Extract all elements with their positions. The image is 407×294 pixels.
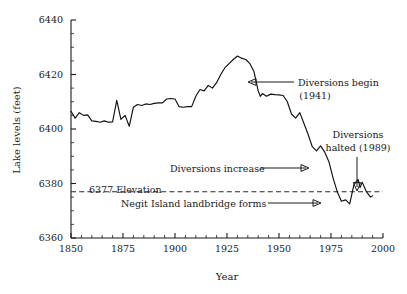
annotation-diversions-halted: Diversions halted (1989) [326, 129, 391, 191]
negit-landbridge-label: Negit Island landbridge forms [121, 198, 267, 209]
diversions-halted-label-line2: halted (1989) [326, 142, 391, 153]
x-axis-title: Year [215, 271, 239, 282]
annotation-diversions-increase: Diversions increase [170, 163, 309, 174]
lake-level-chart-figure: 63606380640064206440 Lake levels (feet) … [0, 0, 407, 294]
y-tick-label: 6400 [39, 123, 63, 134]
y-axis-tick-labels: 63606380640064206440 [39, 14, 63, 243]
diversions-begin-label-line2: (1941) [299, 90, 331, 101]
diversions-halted-label-line1: Diversions [333, 129, 384, 140]
elevation-6377-label: 6377 Elevation [89, 184, 162, 195]
y-tick-label: 6360 [39, 232, 63, 243]
x-axis-tick-labels: 1850187519001925195019752000 [59, 243, 395, 254]
y-axis-title: Lake levels (feet) [11, 86, 22, 173]
x-tick-label: 1850 [59, 243, 83, 254]
diversions-begin-label-line1: Diversions begin [298, 77, 379, 88]
annotation-negit-landbridge: Negit Island landbridge forms [121, 198, 321, 209]
y-tick-label: 6380 [39, 178, 63, 189]
y-axis-major-ticks [71, 20, 76, 238]
y-tick-label: 6420 [39, 69, 63, 80]
x-axis-major-ticks [71, 233, 383, 238]
x-tick-label: 1950 [267, 243, 291, 254]
diversions-increase-label: Diversions increase [170, 163, 265, 174]
chart-canvas: 63606380640064206440 Lake levels (feet) … [0, 0, 407, 294]
x-tick-label: 1925 [215, 243, 239, 254]
x-tick-label: 2000 [371, 243, 395, 254]
x-tick-label: 1875 [111, 243, 135, 254]
y-axis-group: 63606380640064206440 Lake levels (feet) [11, 14, 76, 243]
x-tick-label: 1900 [163, 243, 187, 254]
x-axis-group: 1850187519001925195019752000 Year [59, 233, 395, 282]
y-tick-label: 6440 [39, 14, 63, 25]
annotation-diversions-begin: Diversions begin (1941) [248, 77, 379, 101]
x-tick-label: 1975 [319, 243, 343, 254]
